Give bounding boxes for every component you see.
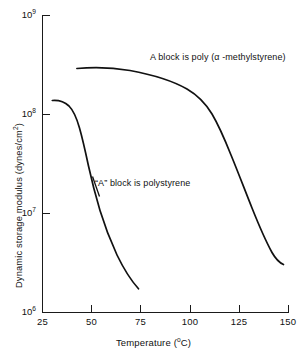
y-axis-title: Dynamic storage modulus (dynes/cm2) xyxy=(14,123,24,288)
annotation-upper-curve: A block is poly (α -methylstyrene) xyxy=(150,52,286,62)
x-tick-label-150: 150 xyxy=(273,316,303,327)
chart-figure: 109 108 107 106 25 50 75 100 125 150 Tem… xyxy=(0,0,307,356)
x-axis-ticks xyxy=(43,305,289,313)
x-axis-title: Temperature (oC) xyxy=(0,337,307,348)
x-tick-label-125: 125 xyxy=(224,316,254,327)
x-tick-label-25: 25 xyxy=(28,316,58,327)
x-tick-label-75: 75 xyxy=(126,316,156,327)
y-axis-ticks xyxy=(43,16,51,214)
annotation-lower-curve: “A” block is polystyrene xyxy=(95,178,190,188)
y-tick-label-1e9: 109 xyxy=(10,9,36,20)
x-tick-label-50: 50 xyxy=(77,316,107,327)
x-tick-label-100: 100 xyxy=(175,316,205,327)
curve-polystyrene xyxy=(52,100,138,288)
y-tick-label-1e8: 108 xyxy=(10,108,36,119)
